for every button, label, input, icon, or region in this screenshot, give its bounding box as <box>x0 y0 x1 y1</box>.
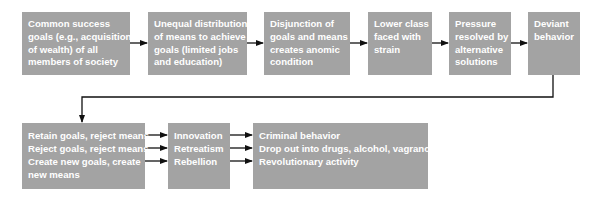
box-text-line: Retain goals, reject means <box>28 129 139 142</box>
box-text-line: behavior <box>534 31 574 44</box>
box-text-line: of wealth) of all <box>28 44 124 57</box>
box-text-line: members of society <box>28 56 124 69</box>
box-text-line: Drop out into drugs, alcohol, vagrancy <box>259 142 422 155</box>
box-text-line: of means to achieve <box>154 31 241 44</box>
box-text-line: solutions <box>455 56 505 69</box>
box-text-line: creates anomic <box>270 44 344 57</box>
box-deviant-behavior: Deviant behavior <box>528 12 580 75</box>
box-text-line: resolved by <box>455 31 505 44</box>
box-text-line: and education) <box>154 56 241 69</box>
box-text-line: goals (e.g., acquisition <box>28 31 124 44</box>
box-common-success-goals: Common success goals (e.g., acquisition … <box>22 12 130 75</box>
box-unequal-distribution: Unequal distribution of means to achieve… <box>148 12 247 75</box>
box-text-line: condition <box>270 56 344 69</box>
box-text-line: Lower class <box>374 18 426 31</box>
box-disjunction: Disjunction of goals and means creates a… <box>264 12 350 75</box>
box-text-line: goals and means <box>270 31 344 44</box>
box-text-line: Reject goals, reject means <box>28 142 139 155</box>
box-adaptations: Innovation Retreatism Rebellion <box>168 123 230 189</box>
box-text-line: faced with <box>374 31 426 44</box>
box-outcomes: Criminal behavior Drop out into drugs, a… <box>253 123 428 189</box>
box-text-line: Unequal distribution <box>154 18 241 31</box>
box-text-line: goals (limited jobs <box>154 44 241 57</box>
box-text-line: Pressure <box>455 18 505 31</box>
box-text-line: Criminal behavior <box>259 129 422 142</box>
box-text-line: Innovation <box>174 129 224 142</box>
box-text-line: alternative <box>455 44 505 57</box>
box-text-line: Disjunction of <box>270 18 344 31</box>
box-pressure-resolved: Pressure resolved by alternative solutio… <box>449 12 511 75</box>
box-responses: Retain goals, reject means Reject goals,… <box>22 123 145 189</box>
box-text-line: Retreatism <box>174 142 224 155</box>
box-text-line: Revolutionary activity <box>259 155 422 168</box>
box-text-line: Deviant <box>534 18 574 31</box>
box-text-line: strain <box>374 44 426 57</box>
box-text-line: Create new goals, create <box>28 155 139 168</box>
box-text-line: Common success <box>28 18 124 31</box>
box-text-line: Rebellion <box>174 155 224 168</box>
box-lower-class-strain: Lower class faced with strain <box>368 12 432 75</box>
box-text-line: new means <box>28 168 139 181</box>
